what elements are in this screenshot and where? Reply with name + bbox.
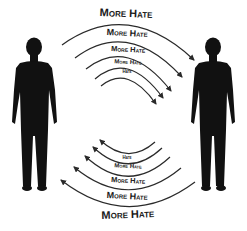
top-label-1: More Hate [99, 6, 153, 20]
bottom-label-2: More Hate [114, 162, 142, 169]
bottom-labels: Hate More Hate More Hate More Hate More … [101, 155, 155, 221]
top-labels: More Hate More Hate More Hate More Hate … [99, 6, 153, 74]
left-person-silhouette [12, 38, 57, 192]
top-label-2: More Hate [106, 27, 148, 39]
top-arrow-5 [101, 78, 156, 104]
bottom-label-3: More Hate [111, 175, 146, 186]
bottom-label-5: More Hate [101, 207, 155, 221]
bottom-arrow-1 [100, 140, 155, 154]
bottom-label-4: More Hate [106, 190, 148, 202]
top-label-5: Hate [122, 69, 131, 74]
hate-cycle-diagram: More Hate More Hate More Hate More Hate … [0, 0, 247, 231]
right-person-silhouette [191, 38, 235, 192]
top-label-3: More Hate [111, 44, 146, 55]
bottom-label-1: Hate [122, 155, 131, 160]
top-label-4: More Hate [114, 58, 142, 65]
